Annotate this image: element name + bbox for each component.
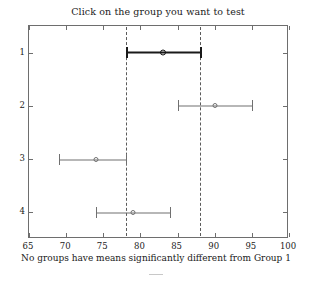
group-interval-4[interactable]: [29, 206, 287, 219]
ci-cap-lower: [59, 154, 60, 165]
x-axis-tick: [252, 233, 253, 237]
x-axis-tick: [215, 233, 216, 237]
x-axis-tick-top: [66, 26, 67, 30]
y-axis-tick-label: 4: [16, 206, 25, 216]
group-interval-2[interactable]: [29, 99, 287, 112]
page-title: Click on the group you want to test: [28, 6, 288, 18]
y-axis-tick-label: 2: [16, 100, 25, 110]
x-axis-tick-top: [140, 26, 141, 30]
x-axis-tick-label: 90: [208, 241, 219, 251]
y-axis-tick-label: 3: [16, 153, 25, 163]
x-axis-tick-top: [289, 26, 290, 30]
group-mean-marker-4[interactable]: [131, 210, 136, 215]
ci-cap-upper: [252, 100, 253, 111]
x-axis-tick: [178, 233, 179, 237]
x-axis-tick-label: 65: [23, 241, 34, 251]
x-axis-tick: [29, 233, 30, 237]
x-axis-tick-top: [178, 26, 179, 30]
figure-footer-mark: [149, 274, 163, 275]
x-axis-tick-label: 100: [280, 241, 296, 251]
x-axis-tick-label: 70: [60, 241, 71, 251]
ci-cap-lower: [126, 47, 128, 58]
ci-cap-upper: [126, 154, 127, 165]
ci-cap-upper: [200, 47, 202, 58]
x-axis-tick: [289, 233, 290, 237]
x-axis-label: No groups have means significantly diffe…: [8, 253, 304, 264]
y-axis-tick-label: 1: [16, 47, 25, 57]
x-axis-tick: [140, 233, 141, 237]
x-axis-tick-top: [103, 26, 104, 30]
group-mean-marker-3[interactable]: [93, 157, 98, 162]
group-mean-marker-2[interactable]: [212, 103, 217, 108]
x-axis-tick: [103, 233, 104, 237]
x-axis-tick-top: [215, 26, 216, 30]
x-axis-tick: [66, 233, 67, 237]
ci-cap-upper: [170, 207, 171, 218]
confidence-interval-line[interactable]: [59, 159, 126, 160]
x-axis-tick-top: [29, 26, 30, 30]
x-axis-tick-label: 85: [171, 241, 182, 251]
x-axis-tick-label: 95: [245, 241, 256, 251]
group-mean-marker-1[interactable]: [160, 50, 166, 56]
x-axis-tick-top: [252, 26, 253, 30]
plot-axes[interactable]: [28, 25, 288, 238]
group-interval-1[interactable]: [29, 46, 287, 59]
group-interval-3[interactable]: [29, 153, 287, 166]
x-axis-tick-label: 75: [97, 241, 108, 251]
figure-canvas: Click on the group you want to test 6570…: [0, 0, 312, 285]
ci-cap-lower: [96, 207, 97, 218]
ci-cap-lower: [178, 100, 179, 111]
x-axis-tick-label: 80: [134, 241, 145, 251]
